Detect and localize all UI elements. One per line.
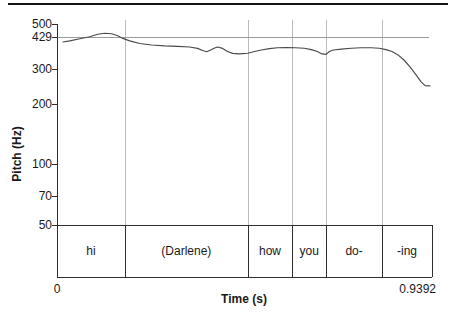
x-axis-end-label: 0.9392 bbox=[386, 282, 436, 296]
y-tick-label-429: 429 bbox=[0, 30, 52, 44]
y-tick-label-200: 200 bbox=[0, 97, 52, 111]
textgrid-word-ing: -ing bbox=[382, 225, 432, 277]
textgrid-word-you: you bbox=[292, 225, 326, 277]
textgrid-word-do: do- bbox=[326, 225, 382, 277]
y-tick-label-70: 70 bbox=[0, 189, 52, 203]
textgrid-word-darlene: (Darlene) bbox=[125, 225, 248, 277]
y-tick-label-100: 100 bbox=[0, 157, 52, 171]
y-tick-label-50: 50 bbox=[0, 218, 52, 232]
pitch-contour-figure: Pitch (Hz) Time (s) 0 0.9392 50042930020… bbox=[0, 0, 457, 312]
x-axis-origin-label: 0 bbox=[47, 282, 67, 296]
y-tick-label-500: 500 bbox=[0, 17, 52, 31]
y-axis-title: Pitch (Hz) bbox=[9, 118, 25, 190]
pitch-contour-curve bbox=[63, 33, 430, 86]
x-axis-title: Time (s) bbox=[194, 292, 294, 306]
textgrid-word-how: how bbox=[248, 225, 292, 277]
textgrid-word-hi: hi bbox=[57, 225, 125, 277]
y-tick-label-300: 300 bbox=[0, 62, 52, 76]
